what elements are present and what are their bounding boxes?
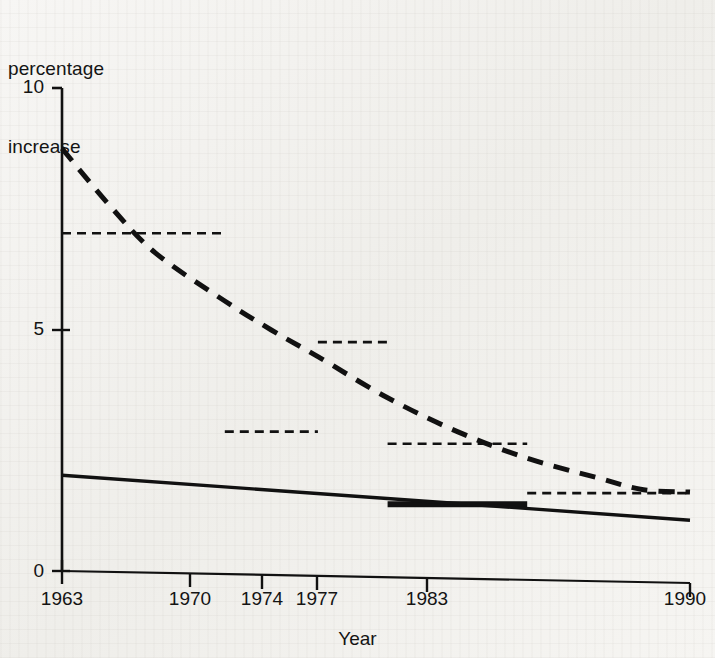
series-period-average-segments — [62, 233, 690, 493]
series-percentage-increase-curve — [62, 149, 690, 493]
x-axis-line — [62, 571, 690, 583]
series-trend-line — [62, 475, 690, 520]
chart-figure: percentage increase 10 5 0 1963 1970 197… — [0, 0, 715, 658]
plot-area — [0, 0, 715, 658]
